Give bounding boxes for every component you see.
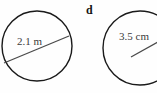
part-label-d: d bbox=[86, 4, 93, 16]
left-circle-diameter-label: 2.1 m bbox=[17, 36, 42, 47]
right-circle-outline bbox=[103, 11, 157, 85]
right-circle-radius-label: 3.5 cm bbox=[119, 31, 149, 42]
right-circle-radius-line bbox=[131, 42, 157, 57]
geometry-figure: d 2.1 m 3.5 cm bbox=[0, 0, 157, 93]
